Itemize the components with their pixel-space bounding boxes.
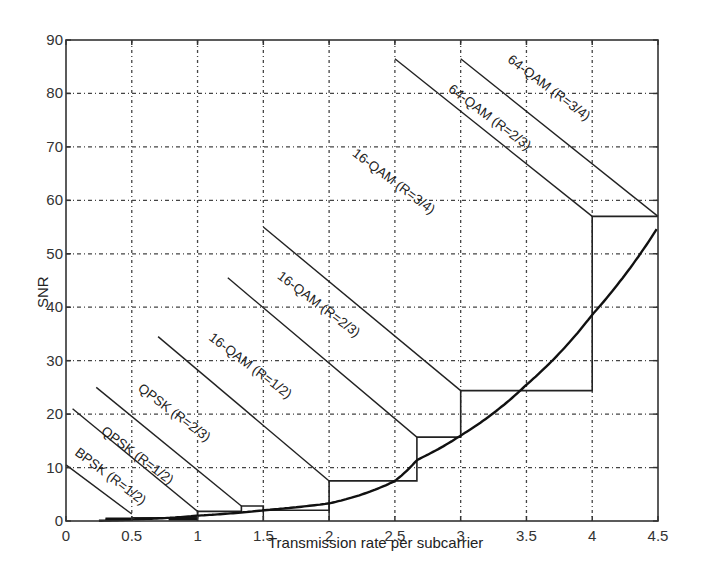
y-tick-label: 50	[46, 245, 63, 262]
curve-label: QPSK (R=2/3)	[135, 380, 213, 444]
y-tick-label: 0	[55, 512, 63, 529]
plot-curves	[66, 59, 658, 521]
curve-labels: BPSK (R=1/2)QPSK (R=1/2)QPSK (R=2/3)16-Q…	[72, 52, 593, 508]
x-tick-label: 0	[62, 527, 70, 544]
mode-line	[461, 59, 658, 217]
x-axis-label: Transmission rate per subcarrier	[268, 534, 483, 551]
x-tick-label: 1	[193, 527, 201, 544]
x-tick-label: 3.5	[516, 527, 537, 544]
mode-line	[395, 59, 592, 217]
y-tick-label: 60	[46, 191, 63, 208]
step-line	[106, 216, 659, 519]
x-tick-label: 4	[588, 527, 596, 544]
y-axis-label: SNR	[34, 276, 51, 308]
curve-label: 16-QAM (R=1/2)	[206, 330, 294, 402]
x-tick-label: 0.5	[121, 527, 142, 544]
curve-label: 64-QAM (R=2/3)	[446, 81, 534, 153]
x-tick-label: 4.5	[648, 527, 669, 544]
curve-label: 64-QAM (R=3/4)	[505, 52, 593, 124]
y-tick-label: 80	[46, 84, 63, 101]
y-tick-label: 20	[46, 405, 63, 422]
mode-line	[263, 227, 460, 391]
y-tick-label: 10	[46, 459, 63, 476]
snr-vs-rate-chart: BPSK (R=1/2)QPSK (R=1/2)QPSK (R=2/3)16-Q…	[0, 0, 712, 580]
curve-label: 16-QAM (R=3/4)	[350, 145, 438, 217]
capacity-curve	[99, 229, 657, 521]
y-tick-label: 30	[46, 352, 63, 369]
y-tick-label: 70	[46, 138, 63, 155]
y-tick-label: 90	[46, 31, 63, 48]
